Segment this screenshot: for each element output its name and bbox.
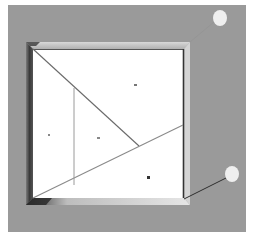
frame-right-bevel — [184, 42, 190, 205]
canvas-area — [33, 49, 184, 198]
diagram-stage — [0, 0, 256, 242]
tangram-diagram — [0, 0, 256, 242]
frame-left-bevel — [26, 42, 33, 205]
region-mark — [147, 176, 150, 179]
frame-top-bevel — [26, 42, 190, 49]
region-mark — [48, 134, 50, 136]
marker-dot-bottom-right[interactable] — [225, 166, 239, 182]
marker-dot-top-right[interactable] — [213, 10, 227, 26]
region-mark — [97, 137, 100, 139]
picture-frame — [26, 42, 190, 205]
region-mark — [134, 84, 137, 86]
